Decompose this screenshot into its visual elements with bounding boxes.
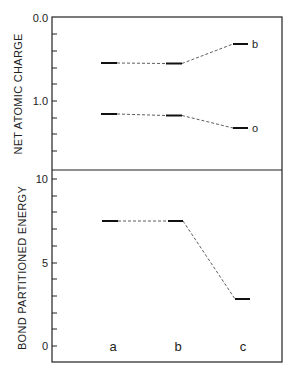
category-label-b: b	[174, 339, 181, 354]
bottom-tick-label-10: 10	[36, 173, 48, 185]
bottom-tick-label-5: 5	[42, 257, 48, 269]
bottom-y-axis-label: BOND PARTITIONED ENERGY	[16, 186, 28, 351]
series-b	[101, 44, 248, 64]
top-y-axis-label: NET ATOMIC CHARGE	[12, 33, 24, 154]
top-tick-label-0: 0.0	[33, 12, 48, 24]
series-o	[101, 114, 248, 128]
top-tick-label-1: 1.0	[33, 95, 48, 107]
series-bpe	[102, 221, 250, 299]
top-y-ticks	[52, 34, 57, 151]
bottom-tick-label-0: 0	[42, 340, 48, 352]
category-label-c: c	[240, 339, 247, 354]
bottom-y-ticks	[52, 179, 57, 346]
series-label-b: b	[252, 38, 258, 50]
series-label-o: o	[252, 122, 258, 134]
category-label-a: a	[109, 339, 117, 354]
chart: 0.0 1.0 NET ATOMIC CHARGE b o 10 5 0 BON…	[0, 0, 293, 374]
plot-frame	[52, 17, 282, 362]
